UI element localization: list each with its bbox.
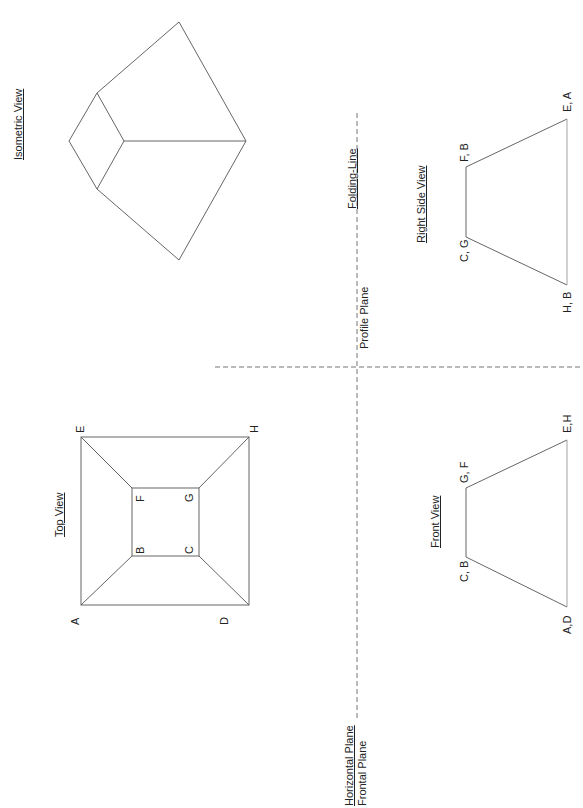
- right-side-view-title: Right Side View: [416, 166, 427, 243]
- point-label-f: F: [135, 495, 146, 502]
- isometric-view-title: Isometric View: [13, 89, 24, 160]
- drawing-canvas: [0, 0, 583, 808]
- front-view-figure: [466, 440, 567, 607]
- front-label-ad: A,D: [562, 616, 573, 634]
- front-label-cb: C, B: [459, 561, 470, 582]
- point-label-g: G: [184, 493, 195, 502]
- right-side-view-figure: [466, 119, 567, 285]
- point-label-b: B: [135, 547, 146, 554]
- side-label-fb: F, B: [459, 143, 470, 162]
- horizontal-plane-label: Horizontal Plane: [344, 725, 355, 806]
- isometric-view-figure: [69, 22, 246, 260]
- side-label-cg: C, G: [459, 239, 470, 262]
- side-label-hb: H, B: [562, 292, 573, 313]
- point-label-c: C: [184, 546, 195, 554]
- point-label-a: A: [70, 618, 81, 625]
- folding-line-label: Folding-Line: [347, 148, 358, 209]
- front-label-gf: G, F: [459, 462, 470, 483]
- point-label-d: D: [219, 617, 230, 625]
- top-view-title: Top View: [54, 493, 65, 537]
- point-label-h: H: [249, 425, 260, 433]
- front-view-title: Front View: [430, 496, 441, 548]
- point-label-e: E: [75, 426, 86, 433]
- profile-plane-label: Profile Plane: [359, 287, 370, 349]
- top-view-figure: [81, 437, 249, 605]
- side-label-ea: E, A: [562, 92, 573, 112]
- front-label-eh: E,H: [562, 415, 573, 433]
- frontal-plane-label: Frontal Plane: [357, 741, 368, 806]
